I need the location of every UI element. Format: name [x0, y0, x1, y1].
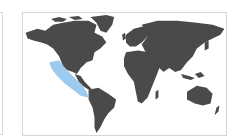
southeast-asia-islands — [181, 72, 205, 80]
world-map — [23, 13, 226, 135]
landmass — [26, 15, 225, 133]
australia — [187, 86, 213, 106]
uk — [122, 33, 126, 41]
north-america — [26, 21, 107, 74]
south-america — [89, 88, 117, 133]
new-zealand — [215, 105, 220, 115]
previous-card-edge — [0, 12, 3, 135]
madagascar — [155, 90, 158, 100]
world-map-card[interactable] — [22, 12, 227, 136]
